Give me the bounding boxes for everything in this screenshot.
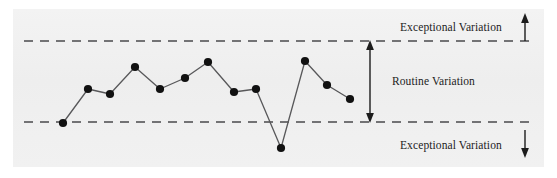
data-point <box>252 85 260 93</box>
data-point <box>181 74 189 82</box>
data-point-markers <box>59 57 354 152</box>
data-point <box>230 88 238 96</box>
figure-root: Exceptional Variation Routine Variation … <box>0 0 557 178</box>
data-point <box>323 81 331 89</box>
arrow-down-icon <box>521 130 529 158</box>
data-series-line <box>63 61 350 148</box>
double-headed-vertical-arrow-icon <box>366 40 374 123</box>
arrow-up-icon <box>521 13 529 41</box>
routine-variation-label: Routine Variation <box>392 76 475 88</box>
data-point <box>301 57 309 65</box>
lower-exceptional-variation-label: Exceptional Variation <box>400 140 502 152</box>
data-point <box>204 58 212 66</box>
data-point <box>277 144 285 152</box>
data-point <box>346 95 354 103</box>
upper-exceptional-variation-label: Exceptional Variation <box>400 22 502 34</box>
data-point <box>106 90 114 98</box>
data-point <box>84 85 92 93</box>
data-point <box>131 63 139 71</box>
data-point <box>59 119 67 127</box>
data-point <box>156 85 164 93</box>
